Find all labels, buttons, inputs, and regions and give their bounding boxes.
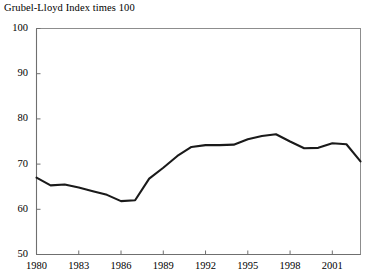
x-tick-label: 1995 — [228, 260, 268, 271]
y-tick-label: 60 — [2, 204, 28, 214]
y-tick-label: 90 — [2, 68, 28, 78]
x-tick-label: 1992 — [186, 260, 226, 271]
x-tick-marks — [37, 251, 333, 255]
x-tick-label: 1989 — [143, 260, 183, 271]
y-tick-marks — [37, 29, 41, 255]
x-tick-label: 1998 — [270, 260, 310, 271]
x-tick-label: 1983 — [59, 260, 99, 271]
x-tick-label: 1980 — [17, 260, 57, 271]
x-tick-label: 1986 — [101, 260, 141, 271]
y-tick-label: 70 — [2, 159, 28, 169]
plot-frame — [37, 29, 361, 255]
x-tick-label: 2001 — [312, 260, 352, 271]
plot-area — [0, 0, 374, 280]
y-tick-label: 100 — [2, 23, 28, 33]
y-tick-label: 80 — [2, 113, 28, 123]
chart-container: Grubel-Lloyd Index times 100 50607080901… — [0, 0, 374, 280]
plot-frame-rect — [37, 29, 361, 255]
y-tick-label: 50 — [2, 249, 28, 259]
data-series-line — [37, 134, 361, 201]
